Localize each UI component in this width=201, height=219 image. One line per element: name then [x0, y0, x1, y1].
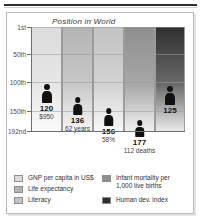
y-tick-label-100th: 100th — [0, 79, 26, 86]
legend-swatch-infant-mortality — [102, 175, 111, 182]
legend-swatch-life-expectancy — [14, 186, 23, 193]
page-top-rule-secondary — [4, 7, 197, 8]
column-infant-mortality — [124, 27, 155, 132]
marker-sublabel: 62 years — [65, 125, 90, 133]
legend-item-life-expectancy: Life expectancy — [14, 185, 73, 193]
person-icon — [31, 84, 62, 103]
marker-literacy: 156 58% — [93, 108, 124, 126]
marker-human-dev-index: 125 — [155, 86, 185, 105]
legend-label-literacy: Literacy — [28, 196, 51, 204]
y-tick-100th — [27, 82, 31, 83]
legend-item-literacy: Literacy — [14, 196, 51, 204]
marker-value: 125 — [163, 106, 176, 115]
marker-sublabel: 112 deaths — [124, 147, 156, 155]
marker-gnp-per-capita: 120 $950 — [31, 84, 62, 103]
legend-label-infant-mortality: Infant mortality per 1,000 live births — [116, 174, 170, 190]
gridline-50th — [31, 54, 185, 55]
y-tick-150th — [27, 111, 31, 112]
y-tick-50th — [27, 54, 31, 55]
marker-value: 120 — [40, 104, 53, 113]
y-tick-label-150th: 150th — [0, 108, 26, 115]
y-tick-1st — [27, 27, 31, 28]
y-tick-label-1st: 1st — [0, 24, 26, 31]
legend-item-gnp-per-capita: GNP per capita in US$ — [14, 174, 94, 182]
plot-area: 120 $950 136 62 years 156 58% 177 — [31, 27, 185, 132]
marker-sublabel: $950 — [39, 113, 53, 121]
marker-value: 156 — [102, 127, 115, 136]
marker-sublabel: 58% — [102, 136, 115, 144]
legend-item-infant-mortality: Infant mortality per 1,000 live births — [102, 174, 170, 190]
legend-item-human-dev-index: Human dev. index — [102, 196, 168, 204]
gridline-1st — [31, 27, 185, 28]
marker-value: 136 — [71, 116, 84, 125]
person-icon — [124, 120, 155, 137]
figure-root: Position in World 120 $950 136 62 yea — [0, 0, 201, 219]
y-tick-192nd — [27, 131, 31, 132]
person-icon — [93, 108, 124, 126]
person-icon — [62, 97, 93, 115]
person-icon — [155, 86, 185, 105]
legend-swatch-literacy — [14, 197, 23, 204]
gridline-100th — [31, 82, 185, 83]
legend-swatch-human-dev-index — [102, 197, 111, 204]
chart-title: Position in World — [52, 17, 115, 26]
page-top-rule — [4, 4, 197, 6]
legend: GNP per capita in US$ Life expectancy Li… — [14, 174, 186, 208]
marker-infant-mortality: 177 112 deaths — [124, 120, 155, 137]
legend-swatch-gnp-per-capita — [14, 175, 23, 182]
legend-label-life-expectancy: Life expectancy — [28, 185, 73, 193]
marker-value: 177 — [133, 138, 146, 147]
y-tick-label-192nd: 192nd — [0, 128, 26, 135]
legend-label-gnp-per-capita: GNP per capita in US$ — [28, 174, 94, 182]
y-tick-label-50th: 50th — [0, 51, 26, 58]
marker-life-expectancy: 136 62 years — [62, 97, 93, 115]
legend-label-human-dev-index: Human dev. index — [116, 196, 168, 204]
column-human-dev-index — [155, 27, 185, 132]
